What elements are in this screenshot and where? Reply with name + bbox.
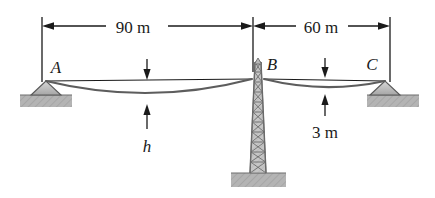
dimension-sag-right: 3 m [312,58,338,142]
point-label-c: C [366,55,378,74]
lattice-tower-b [250,58,266,173]
dimension-label-h: h [143,137,152,156]
ground-block-tower [231,173,286,187]
dimension-label-90m: 90 m [116,18,150,37]
arrowhead-right-60m [378,22,390,30]
dimension-span-left: 90 m [42,17,253,37]
arrowhead-right-90m [241,22,253,30]
chord-line-left [46,79,252,81]
ground-block-a [20,95,72,107]
point-label-a: A [50,58,62,77]
ground-block-c [367,95,419,107]
dimension-span-right: 60 m [253,17,390,37]
diagram-canvas: 90 m 60 m [0,0,435,198]
sag-arrowhead-top-3m [321,67,328,78]
chord-lines [46,79,385,81]
sag-arrowhead-top-h [143,69,150,80]
sag-arrowhead-bottom-3m [321,94,328,105]
arrowhead-left-90m [42,22,54,30]
sag-arrowhead-bottom-h [143,104,150,115]
ground-blocks [20,95,419,187]
dimension-label-60m: 60 m [304,18,338,37]
chord-line-right [264,79,385,81]
dimension-sag-left: h [143,59,152,156]
arrowhead-left-60m [253,22,265,30]
dimension-label-3m: 3 m [312,123,338,142]
point-label-b: B [267,55,278,74]
tower-tip [255,58,262,64]
cable-tower-diagram: 90 m 60 m [0,0,435,198]
